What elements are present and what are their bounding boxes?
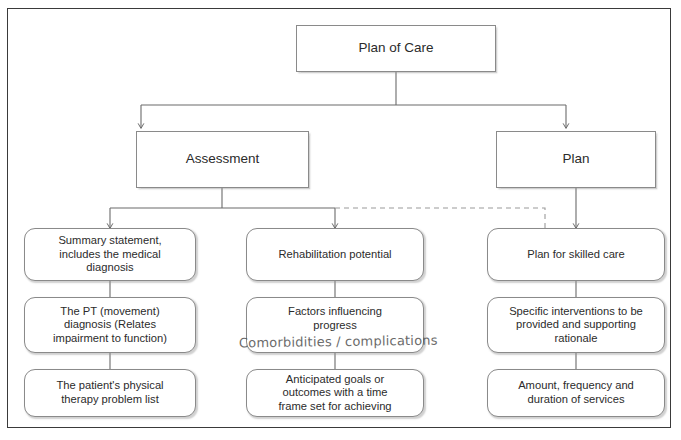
node-summary-statement[interactable]: Summary statement, includes the medical … <box>24 228 196 281</box>
node-label: Specific interventions to be provided an… <box>509 305 643 346</box>
node-problem-list[interactable]: The patient's physical therapy problem l… <box>24 369 196 417</box>
connector-plan-of-care-split <box>141 72 566 128</box>
node-label: Anticipated goals or outcomes with a tim… <box>278 373 391 414</box>
node-assessment[interactable]: Assessment <box>136 131 309 188</box>
connector-assessment-split <box>110 188 335 228</box>
node-label: Plan <box>562 151 589 167</box>
node-label: Amount, frequency and duration of servic… <box>518 379 634 406</box>
handwritten-annotation-comorbidities: Comorbidities / complications <box>239 333 438 351</box>
node-anticipated-goals[interactable]: Anticipated goals or outcomes with a tim… <box>246 369 424 417</box>
node-label: Plan of Care <box>358 40 433 56</box>
node-pt-movement-diagnosis[interactable]: The PT (movement) diagnosis (Relates imp… <box>24 297 196 353</box>
node-label: Factors influencing progress <box>288 305 382 332</box>
node-rehabilitation-potential[interactable]: Rehabilitation potential <box>246 228 424 281</box>
node-plan-for-skilled-care[interactable]: Plan for skilled care <box>487 228 665 281</box>
node-label: Assessment <box>186 151 260 167</box>
node-label: Rehabilitation potential <box>278 248 391 262</box>
diagram-page: Plan of Care Assessment Plan Summary sta… <box>0 0 681 440</box>
node-plan-of-care[interactable]: Plan of Care <box>296 25 496 72</box>
node-plan[interactable]: Plan <box>496 131 656 188</box>
node-amount-frequency-duration[interactable]: Amount, frequency and duration of servic… <box>487 369 665 417</box>
node-label: The patient's physical therapy problem l… <box>56 379 163 406</box>
node-label: Plan for skilled care <box>527 248 625 262</box>
node-label: Summary statement, includes the medical … <box>58 234 161 275</box>
node-specific-interventions[interactable]: Specific interventions to be provided an… <box>487 297 665 353</box>
node-label: The PT (movement) diagnosis (Relates imp… <box>53 305 167 346</box>
